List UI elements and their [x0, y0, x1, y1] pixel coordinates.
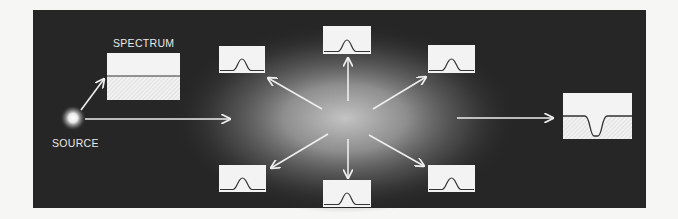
- emission-box-bottom: [323, 180, 371, 207]
- spectrum-label: SPECTRUM: [113, 37, 174, 49]
- emission-box-bottom-right: [428, 165, 475, 192]
- emission-box-top: [323, 26, 371, 54]
- diagram-canvas: SOURCE SPECTRUM: [0, 0, 678, 219]
- absorption-spectrum-box: [563, 93, 632, 139]
- emission-box-top-left: [219, 46, 265, 73]
- emission-box-bottom-left: [219, 165, 266, 192]
- source-label: SOURCE: [52, 137, 99, 149]
- spectrum-continuous-box: [107, 53, 180, 100]
- emission-box-top-right: [428, 45, 475, 73]
